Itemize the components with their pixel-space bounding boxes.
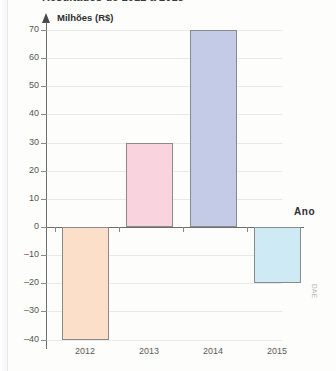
- y-axis-tick-label: –40: [1, 334, 39, 344]
- y-axis-tick-label: 20: [1, 165, 39, 175]
- plot-area: 706050403020100–10–20–30–40 201220132014…: [0, 0, 336, 371]
- bar: [126, 143, 173, 227]
- x-axis-tick: [119, 227, 120, 232]
- x-axis-tick-label: 2015: [252, 346, 302, 356]
- y-axis-tick: [41, 58, 47, 59]
- y-axis-tick: [41, 171, 47, 172]
- y-axis-tick: [41, 86, 47, 87]
- gridline: [47, 86, 282, 87]
- x-axis-tick: [55, 227, 56, 232]
- x-axis-title: Ano: [294, 206, 315, 217]
- gridline: [47, 58, 282, 59]
- y-axis-tick-label: 60: [1, 52, 39, 62]
- bar: [62, 227, 109, 340]
- y-axis-title: Milhões (R$): [57, 12, 113, 23]
- y-axis-tick: [41, 255, 47, 256]
- y-axis-tick-label: 70: [1, 24, 39, 34]
- y-axis-tick-label: –30: [1, 305, 39, 315]
- y-axis-line: [46, 22, 47, 349]
- y-axis-tick: [41, 114, 47, 115]
- y-axis-tick-label: –10: [1, 249, 39, 259]
- bar: [254, 227, 301, 283]
- x-axis-tick-label: 2014: [188, 346, 238, 356]
- y-axis-tick-label: 50: [1, 80, 39, 90]
- y-axis-tick-label: 30: [1, 137, 39, 147]
- y-axis-tick: [41, 311, 47, 312]
- x-axis-tick: [183, 227, 184, 232]
- y-axis-tick-label: 0: [1, 221, 39, 231]
- bar-chart-figure: Resultados de 2012 a 2015 70605040302010…: [0, 0, 336, 371]
- y-axis-tick: [41, 340, 47, 341]
- gridline: [47, 30, 282, 31]
- y-axis-tick: [41, 199, 47, 200]
- gridline: [47, 340, 282, 341]
- bar: [190, 30, 237, 227]
- y-axis-tick-label: –20: [1, 277, 39, 287]
- x-axis-tick: [247, 227, 248, 232]
- x-axis-tick-label: 2013: [124, 346, 174, 356]
- y-axis-tick: [41, 283, 47, 284]
- y-axis-tick: [41, 143, 47, 144]
- gridline: [47, 114, 282, 115]
- watermark-label: DAE: [311, 284, 318, 299]
- x-axis-tick-label: 2012: [60, 346, 110, 356]
- y-axis-tick: [41, 227, 47, 228]
- y-axis-tick-label: 10: [1, 193, 39, 203]
- y-axis-tick-label: 40: [1, 108, 39, 118]
- y-axis-tick: [41, 30, 47, 31]
